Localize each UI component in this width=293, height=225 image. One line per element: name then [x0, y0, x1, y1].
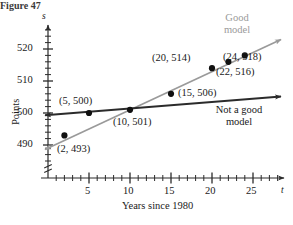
point-label-5-500: (5, 500) — [59, 96, 92, 107]
point-label-22-516: (22, 516) — [216, 67, 255, 78]
point-label-15-506: (15, 506) — [178, 88, 217, 99]
data-point — [86, 110, 92, 116]
good-model-annotation-line1: Good — [209, 12, 265, 24]
point-label-24-518: (24, 518) — [223, 52, 262, 63]
point-label-2-493: (2, 493) — [57, 144, 90, 155]
x-tick-label-25: 25 — [246, 186, 257, 197]
data-point — [127, 107, 133, 113]
data-point — [168, 91, 174, 97]
not-good-model-annotation-line2: model — [203, 116, 275, 128]
data-point — [209, 65, 215, 71]
x-tick-label-10: 10 — [123, 186, 134, 197]
x-axis-title: Years since 1980 — [122, 201, 193, 212]
y-axis-variable-symbol: s — [42, 12, 46, 22]
point-label-20-514: (20, 514) — [152, 53, 191, 64]
not-good-model-annotation: Not a good model — [203, 104, 275, 128]
x-tick-label-15: 15 — [164, 186, 175, 197]
x-axis-variable-symbol: t — [281, 186, 284, 196]
data-point — [61, 132, 67, 138]
good-model-annotation-line2: model — [209, 24, 265, 36]
y-tick-label-490: 490 — [17, 139, 33, 150]
x-tick-label-20: 20 — [205, 186, 216, 197]
y-tick-label-520: 520 — [17, 43, 33, 54]
y-tick-label-510: 510 — [17, 75, 33, 86]
y-axis-title: Points — [10, 99, 21, 125]
good-model-annotation: Good model — [209, 12, 265, 36]
figure-container: 520 510 500 490 5 10 15 20 25 s t Points… — [0, 0, 293, 225]
not-good-model-annotation-line1: Not a good — [203, 104, 275, 116]
x-tick-label-5: 5 — [85, 186, 90, 197]
point-label-10-501: (10, 501) — [113, 117, 152, 128]
